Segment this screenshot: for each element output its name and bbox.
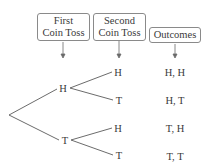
outcome-ht: H, T: [164, 95, 185, 106]
node-second-th: H: [113, 123, 123, 134]
node-second-tt: T: [115, 150, 123, 161]
node-first-t: T: [61, 135, 69, 146]
header-first-coin-toss: First Coin Toss: [37, 13, 90, 41]
node-first-h: H: [58, 83, 68, 94]
header-first-line2: Coin Toss: [43, 27, 85, 39]
node-second-hh: H: [113, 67, 123, 78]
header-second-line2: Coin Toss: [99, 27, 141, 39]
header-second-coin-toss: Second Coin Toss: [93, 13, 146, 41]
header-first-line1: First: [54, 15, 73, 27]
node-second-ht: T: [115, 95, 123, 106]
outcome-hh: H, H: [164, 67, 186, 78]
header-second-line1: Second: [104, 15, 135, 27]
header-outcomes: Outcomes: [149, 27, 201, 43]
outcome-th: T, H: [165, 123, 185, 134]
header-outcomes-label: Outcomes: [154, 29, 197, 41]
outcome-tt: T, T: [165, 151, 184, 162]
